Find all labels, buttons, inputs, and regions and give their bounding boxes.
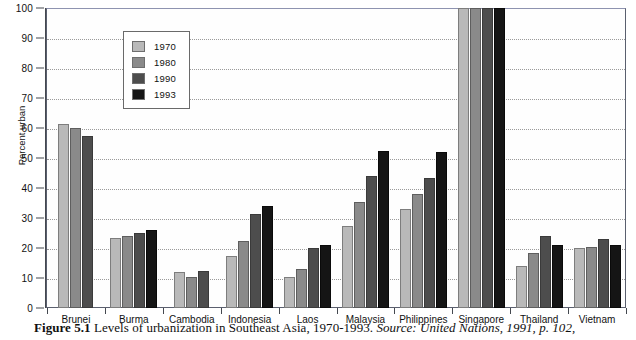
y-tick-mark <box>36 128 44 129</box>
legend-item: 1980 <box>132 54 182 70</box>
x-axis-tick <box>337 308 338 314</box>
y-tick-label: 40 <box>21 183 33 194</box>
bar <box>262 206 273 308</box>
y-tick-label: 90 <box>21 33 33 44</box>
x-axis-tick <box>47 308 48 314</box>
bar <box>552 245 563 308</box>
bar <box>610 245 621 308</box>
bar <box>134 233 145 308</box>
x-axis-tick <box>279 308 280 314</box>
x-axis-tick <box>221 308 222 314</box>
y-tick-mark <box>36 158 44 159</box>
bar <box>296 269 307 308</box>
y-tick-label: 100 <box>16 3 33 14</box>
bar <box>366 176 377 308</box>
bar <box>198 271 209 309</box>
caption-body: Levels of urbanization in Southeast Asia… <box>94 320 373 335</box>
y-axis: Percent urban 0102030405060708090100 <box>0 0 46 340</box>
legend-label: 1970 <box>154 41 176 52</box>
legend-swatch-icon <box>132 41 145 52</box>
y-tick-mark <box>36 248 44 249</box>
bar <box>226 256 237 309</box>
bar <box>308 248 319 308</box>
y-tick-mark <box>36 8 44 9</box>
bar <box>494 8 505 308</box>
legend-label: 1993 <box>154 89 176 100</box>
bar <box>354 202 365 309</box>
legend-label: 1980 <box>154 57 176 68</box>
caption-figure-number: Figure 5.1 <box>34 320 91 335</box>
y-tick-label: 10 <box>21 273 33 284</box>
legend-label: 1990 <box>154 73 176 84</box>
legend-item: 1970 <box>132 38 182 54</box>
caption-source: Source: United Nations, 1991, p. 102, <box>376 320 575 335</box>
x-axis-tick <box>163 308 164 314</box>
bar <box>436 152 447 308</box>
bar-group <box>452 8 510 308</box>
figure-caption: Figure 5.1 Levels of urbanization in Sou… <box>34 320 634 336</box>
bar <box>174 272 185 308</box>
y-tick-mark <box>36 218 44 219</box>
bar <box>320 245 331 308</box>
bar <box>342 226 353 309</box>
x-axis-tick <box>105 308 106 314</box>
legend-swatch-icon <box>132 89 145 100</box>
bar <box>146 230 157 308</box>
bar <box>400 209 411 308</box>
y-tick-mark <box>36 308 44 309</box>
bar <box>424 178 435 309</box>
y-tick-mark <box>36 38 44 39</box>
bar-group <box>47 8 105 308</box>
bar <box>238 241 249 309</box>
bar <box>82 136 93 309</box>
bar <box>470 8 481 308</box>
bar <box>574 248 585 308</box>
x-axis-tick <box>510 308 511 314</box>
legend-item: 1990 <box>132 70 182 86</box>
x-axis-tick <box>452 308 453 314</box>
y-tick-label: 30 <box>21 213 33 224</box>
y-tick-mark <box>36 278 44 279</box>
legend-swatch-icon <box>132 57 145 68</box>
legend-item: 1993 <box>132 86 182 102</box>
y-axis-title: Percent urban <box>16 91 27 181</box>
bar <box>110 238 121 309</box>
bar <box>58 124 69 309</box>
bar-group <box>279 8 337 308</box>
bar <box>186 277 197 309</box>
bar <box>284 277 295 309</box>
bar-group <box>568 8 626 308</box>
bar <box>586 247 597 309</box>
bar <box>540 236 551 308</box>
bar <box>528 253 539 309</box>
bar-group <box>337 8 395 308</box>
bar-group <box>510 8 568 308</box>
bar-group <box>221 8 279 308</box>
x-axis-tick <box>626 308 627 314</box>
y-tick-label: 80 <box>21 63 33 74</box>
legend: 1970198019901993 <box>123 31 190 109</box>
bar <box>458 8 469 308</box>
bar-group <box>394 8 452 308</box>
y-tick-label: 60 <box>21 123 33 134</box>
y-tick-label: 70 <box>21 93 33 104</box>
y-tick-label: 20 <box>21 243 33 254</box>
bar <box>378 151 389 309</box>
y-tick-mark <box>36 98 44 99</box>
y-tick-label: 0 <box>27 303 33 314</box>
x-axis-tick <box>394 308 395 314</box>
figure-5-1: Percent urban 0102030405060708090100 197… <box>0 0 636 340</box>
y-tick-mark <box>36 188 44 189</box>
bar <box>412 194 423 308</box>
x-axis-tick <box>568 308 569 314</box>
bar <box>70 128 81 308</box>
bar <box>598 239 609 308</box>
y-tick-mark <box>36 68 44 69</box>
bar <box>516 266 527 308</box>
bar <box>482 8 493 308</box>
bar <box>250 214 261 309</box>
legend-swatch-icon <box>132 73 145 84</box>
bar <box>122 236 133 308</box>
y-tick-label: 50 <box>21 153 33 164</box>
